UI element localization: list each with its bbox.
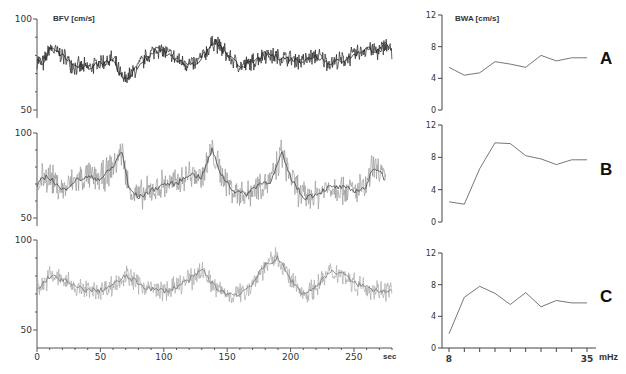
y-tick-0: 0 [431,218,436,227]
bfv-panel-c [33,240,392,348]
panel-letter-a: A [600,49,612,69]
y-tick-8: 8 [431,153,436,162]
x-tick-100: 100 [155,352,172,362]
time-x-axis [37,348,392,352]
y-tick-50: 50 [21,325,33,335]
y-tick-4: 4 [431,312,436,321]
panel-letter-c: C [600,287,612,307]
y-tick-12: 12 [426,11,436,20]
y-tick-100: 100 [15,128,32,138]
x-tick-35: 35 [581,354,594,364]
x-tick-0: 0 [34,352,40,362]
bfv-panel-a [33,19,392,118]
bwa-panel-a [438,15,587,110]
bfv-trace [37,247,392,303]
left-x-unit: sec [383,352,396,361]
y-tick-0: 0 [431,344,436,353]
bwa-line [449,143,587,204]
bwa-panel-b [438,125,587,222]
figure: 1005010050100500501001502002501284012840… [0,0,626,374]
panel-letter-b: B [600,160,612,180]
bwa-line [449,55,587,75]
y-tick-8: 8 [431,281,436,290]
y-tick-4: 4 [431,74,436,83]
left-title: BFV [cm/s] [53,14,95,23]
right-title: BWA [cm/s] [455,14,499,23]
x-tick-8: 8 [446,354,452,364]
x-tick-150: 150 [219,352,236,362]
bwa-panel-c [438,253,587,348]
y-tick-8: 8 [431,43,436,52]
x-tick-50: 50 [95,352,107,362]
y-tick-50: 50 [21,213,33,223]
bfv-trace [37,36,392,83]
x-tick-250: 250 [345,352,362,362]
x-tick-200: 200 [282,352,299,362]
y-tick-12: 12 [426,249,436,258]
right-x-unit: mHz [599,352,618,362]
freq-x-axis [442,348,596,352]
bfv-panel-b [33,133,386,226]
y-tick-100: 100 [15,235,32,245]
y-tick-4: 4 [431,186,436,195]
bwa-line [449,286,587,334]
y-tick-100: 100 [15,14,32,24]
y-tick-0: 0 [431,106,436,115]
y-tick-50: 50 [21,105,33,115]
y-tick-12: 12 [426,121,436,130]
